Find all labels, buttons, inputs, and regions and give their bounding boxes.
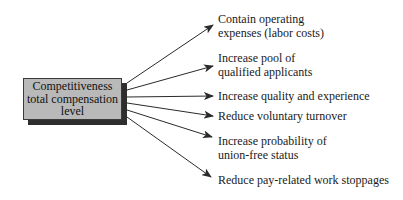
outcome-line: Reduce pay-related work stoppages <box>218 173 389 187</box>
outcome-line: qualified applicants <box>218 65 312 79</box>
outcome-line: Increase probability of <box>218 134 327 148</box>
outcome-increase-applicant-pool: Increase pool of qualified applicants <box>218 51 312 79</box>
outcome-line: Increase quality and experience <box>218 89 370 103</box>
arrow-2 <box>127 66 213 90</box>
outcome-line: union-free status <box>218 148 327 162</box>
source-line-1: Competitiveness <box>33 80 113 93</box>
source-line-3: level <box>61 105 84 118</box>
outcome-increase-quality-experience: Increase quality and experience <box>218 89 370 103</box>
compensation-outcomes-diagram: Competitiveness total compensation level… <box>0 0 403 200</box>
outcome-line: Increase pool of <box>218 51 312 65</box>
arrow-3 <box>127 96 213 97</box>
outcome-union-free-status: Increase probability of union-free statu… <box>218 134 327 162</box>
outcome-reduce-work-stoppages: Reduce pay-related work stoppages <box>218 173 389 187</box>
outcome-reduce-voluntary-turnover: Reduce voluntary turnover <box>218 109 347 123</box>
source-box-competitiveness: Competitiveness total compensation level <box>23 78 122 120</box>
outcome-line: expenses (labor costs) <box>218 26 324 40</box>
outcome-contain-operating-expenses: Contain operating expenses (labor costs) <box>218 12 324 40</box>
outcome-line: Contain operating <box>218 12 324 26</box>
arrow-6 <box>127 117 211 177</box>
arrow-1 <box>127 25 213 83</box>
outcome-line: Reduce voluntary turnover <box>218 109 347 123</box>
